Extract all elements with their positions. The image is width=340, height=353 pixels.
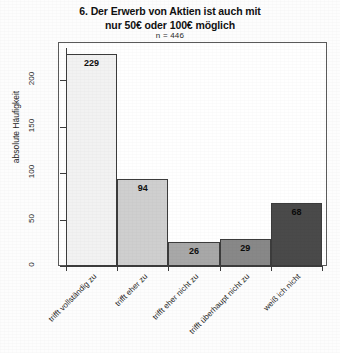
chart-page: 6. Der Erwerb von Aktien ist auch mit nu… <box>0 0 340 353</box>
plot-area: 22994262968 <box>66 48 322 266</box>
bar-4: 29 <box>220 239 271 266</box>
x-tick-4 <box>271 266 272 271</box>
x-tick-2 <box>168 266 169 271</box>
bar-value-label-2: 94 <box>118 183 167 193</box>
bar-5: 68 <box>271 203 322 266</box>
chart-title-line-2: nur 50€ oder 100€ möglich <box>0 18 340 32</box>
y-axis-title: absolute Häufigkeit <box>11 67 21 187</box>
bar-value-label-5: 68 <box>272 207 321 217</box>
bar-1: 229 <box>66 54 117 266</box>
chart-title-line-1: 6. Der Erwerb von Aktien ist auch mit <box>0 4 340 18</box>
y-tick-label-0: 0 <box>27 248 36 282</box>
chart-subtitle-sample-size: n = 446 <box>0 31 340 40</box>
bar-3: 26 <box>168 242 219 266</box>
chart-title: 6. Der Erwerb von Aktien ist auch mit nu… <box>0 4 340 32</box>
x-axis-line <box>66 266 323 267</box>
bar-value-label-4: 29 <box>221 243 270 253</box>
x-tick-1 <box>117 266 118 271</box>
bar-2: 94 <box>117 179 168 266</box>
bar-value-label-3: 26 <box>169 246 218 256</box>
y-tick-label-50: 50 <box>27 201 36 235</box>
y-tick-label-150: 150 <box>27 108 36 142</box>
x-tick-3 <box>220 266 221 271</box>
x-tick-5 <box>322 266 323 271</box>
x-tick-0 <box>66 266 67 271</box>
bar-value-label-1: 229 <box>67 58 116 68</box>
y-tick-label-100: 100 <box>27 155 36 189</box>
y-tick-label-200: 200 <box>27 62 36 96</box>
